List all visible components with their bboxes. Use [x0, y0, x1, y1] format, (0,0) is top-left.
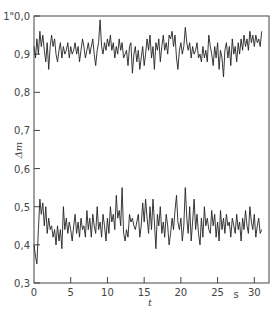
- x-axis-ticks: 051015202530: [31, 277, 261, 298]
- y-axis-label: Δm: [13, 142, 24, 160]
- y-tick-label: 0,4: [14, 240, 30, 251]
- y-tick-label: 0,8: [14, 87, 30, 98]
- x-tick-label: 5: [68, 287, 74, 298]
- series-line: [34, 20, 262, 77]
- y-tick-label: 1"0,0: [3, 11, 30, 22]
- x-tick-label: 25: [211, 287, 224, 298]
- y-tick-label: 0,9: [14, 49, 30, 60]
- x-tick-label: 30: [248, 287, 261, 298]
- x-axis-label: t: [148, 297, 153, 308]
- series-line: [34, 188, 262, 264]
- y-tick-label: 0,6: [14, 164, 30, 175]
- data-series: [34, 20, 262, 264]
- y-tick-label: 0,7: [14, 125, 30, 136]
- x-axis-unit: s: [233, 289, 238, 300]
- y-tick-label: 0,3: [14, 278, 30, 289]
- x-tick-label: 20: [175, 287, 188, 298]
- x-tick-label: 0: [31, 287, 37, 298]
- y-tick-label: 0,5: [14, 202, 30, 213]
- line-chart: 0,30,40,50,60,70,80,91"0,0 051015202530 …: [0, 0, 280, 317]
- x-tick-label: 10: [101, 287, 114, 298]
